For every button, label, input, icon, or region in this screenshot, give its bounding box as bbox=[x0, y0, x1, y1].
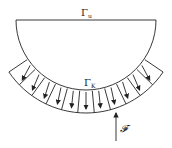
pressure-arrow bbox=[71, 91, 73, 108]
pressure-arrow bbox=[44, 82, 49, 98]
pressure-arrow bbox=[123, 82, 128, 98]
contact-boundary-diagram: Γu ΓK 𝓕 bbox=[0, 0, 172, 148]
band-divider bbox=[145, 60, 163, 72]
gamma-k-label: ΓK bbox=[84, 77, 96, 89]
pressure-arrow bbox=[133, 75, 140, 91]
gamma-u-label: Γu bbox=[81, 7, 92, 19]
band-divider bbox=[105, 88, 111, 109]
band-divider bbox=[9, 60, 27, 72]
band-divider bbox=[78, 91, 80, 113]
band-divider bbox=[62, 88, 68, 109]
pressure-arrow bbox=[111, 88, 115, 105]
band-divider bbox=[92, 91, 94, 113]
force-label: 𝓕 bbox=[120, 123, 131, 134]
pressure-arrow bbox=[57, 88, 61, 105]
pressure-arrow bbox=[32, 75, 39, 91]
pressure-arrow bbox=[99, 91, 101, 108]
